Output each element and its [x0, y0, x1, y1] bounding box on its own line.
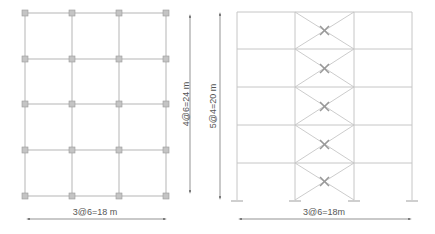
- floor-plan: [25, 13, 166, 196]
- elevation-width-label: 3@6=18m: [303, 207, 345, 217]
- plan-width-label: 3@6=18 m: [73, 207, 117, 217]
- elevation-height-label: 5@4=20 m: [208, 84, 218, 128]
- damper-devices: [320, 26, 329, 186]
- plan-height-label: 4@6=24 m: [181, 82, 191, 126]
- structural-diagram: 4@6=24 m 3@6=18 m 5@4=20 m 3@6=18m: [0, 0, 435, 234]
